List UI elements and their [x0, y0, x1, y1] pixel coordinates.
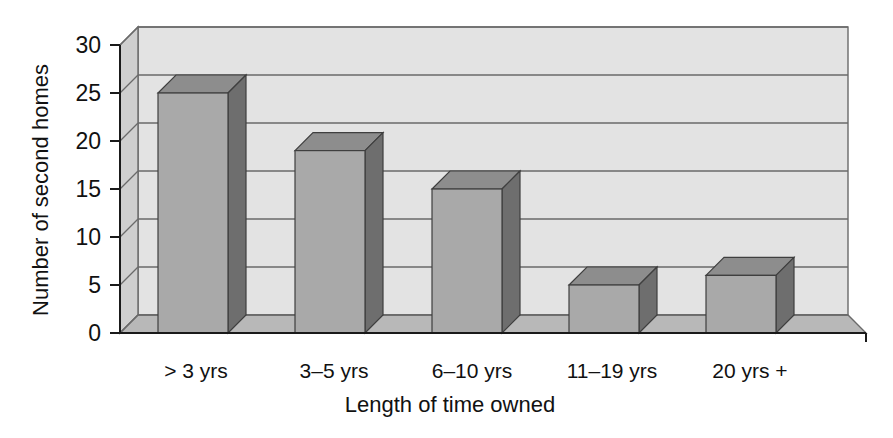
bar-column-4[interactable]	[706, 257, 794, 333]
bar-column-1[interactable]	[295, 133, 383, 333]
y-tick-label-25: 25	[75, 80, 101, 106]
x-category-label-1: 3–5 yrs	[300, 359, 369, 382]
bar-front-face	[706, 275, 776, 333]
y-tick-label-0: 0	[88, 320, 101, 346]
x-axis-title: Length of time owned	[345, 392, 555, 417]
x-category-label-2: 6–10 yrs	[432, 359, 513, 382]
x-category-label-0: > 3 yrs	[164, 359, 228, 382]
y-tick-label-30: 30	[75, 32, 101, 58]
chart-canvas: 30 25 20 15 10 5 0 > 3 yrs 3–5 yrs 6–10 …	[0, 0, 893, 438]
bar-front-face	[158, 93, 228, 333]
bar-front-face	[432, 189, 502, 333]
bar-side-face	[228, 75, 246, 333]
y-tick-label-20: 20	[75, 128, 101, 154]
bar-chart: 30 25 20 15 10 5 0 > 3 yrs 3–5 yrs 6–10 …	[0, 0, 893, 438]
bar-column-3[interactable]	[569, 267, 657, 333]
bar-front-face	[569, 285, 639, 333]
y-tick-label-15: 15	[75, 176, 101, 202]
bar-column-0[interactable]	[158, 75, 246, 333]
bar-side-face	[365, 133, 383, 333]
bar-side-face	[502, 171, 520, 333]
y-tick-label-10: 10	[75, 224, 101, 250]
bar-column-2[interactable]	[432, 171, 520, 333]
x-category-label-3: 11–19 yrs	[567, 359, 658, 382]
x-category-label-4: 20 yrs +	[712, 359, 787, 382]
y-tick-label-5: 5	[88, 272, 101, 298]
bar-front-face	[295, 151, 365, 333]
y-axis-title: Number of second homes	[28, 64, 53, 316]
